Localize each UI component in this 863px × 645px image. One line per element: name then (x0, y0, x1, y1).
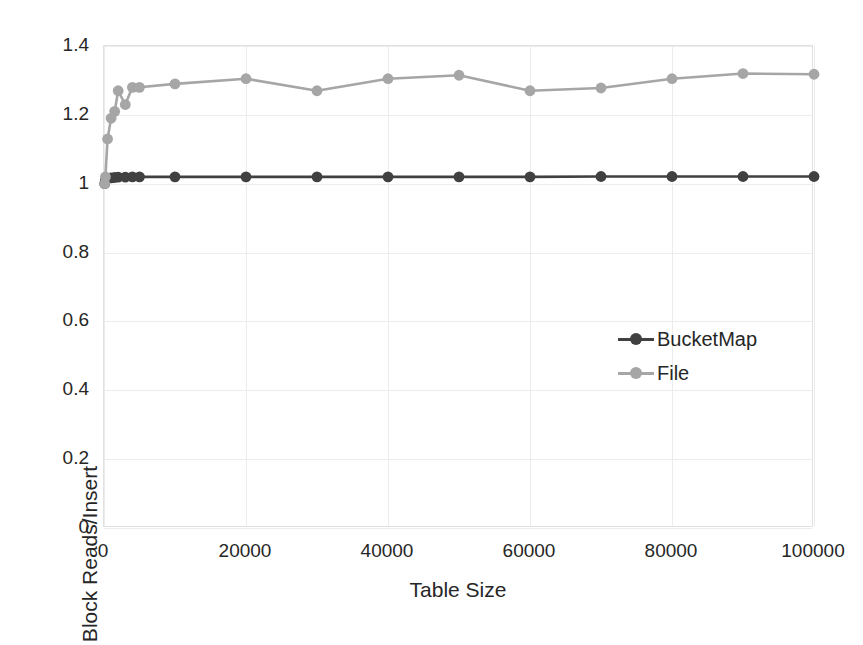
data-point-marker (312, 85, 323, 96)
x-axis-tick-label: 0 (33, 541, 173, 560)
series-line (105, 74, 814, 184)
gridline-vertical (814, 46, 815, 526)
legend-item-file[interactable]: File (618, 356, 757, 390)
data-point-marker (170, 171, 181, 182)
data-point-marker (667, 171, 678, 182)
data-point-marker (120, 99, 131, 110)
y-axis-tick-label: 1 (0, 173, 89, 192)
legend-label-bucketmap: BucketMap (657, 329, 757, 349)
y-axis-tick-label: 0.6 (0, 310, 89, 329)
legend-marker-bucketmap (618, 329, 654, 349)
data-series-layer (104, 46, 814, 528)
data-point-marker (170, 78, 181, 89)
data-point-marker (241, 171, 252, 182)
data-point-marker (525, 171, 536, 182)
data-point-marker (109, 106, 120, 117)
data-point-marker (738, 171, 749, 182)
x-axis-tick-label: 20000 (175, 541, 315, 560)
legend-label-file: File (657, 363, 689, 383)
data-point-marker (454, 70, 465, 81)
data-point-marker (134, 171, 145, 182)
series-bucketmap (99, 171, 819, 189)
data-point-marker (113, 85, 124, 96)
data-point-marker (454, 171, 465, 182)
data-point-marker (809, 69, 820, 80)
data-point-marker (312, 171, 323, 182)
y-axis-tick-label: 0.8 (0, 242, 89, 261)
chart-title-remnant (0, 0, 863, 10)
x-axis-title: Table Size (103, 578, 813, 602)
data-point-marker (100, 171, 111, 182)
data-point-marker (102, 134, 113, 145)
y-axis-tick-label: 0 (0, 517, 89, 536)
legend-item-bucketmap[interactable]: BucketMap (618, 322, 757, 356)
y-axis-tick-label: 0.2 (0, 448, 89, 467)
data-point-marker (383, 171, 394, 182)
x-axis-tick-label: 100000 (743, 541, 863, 560)
y-axis-tick-label: 1.2 (0, 104, 89, 123)
y-axis-tick-label: 1.4 (0, 35, 89, 54)
x-axis-tick-label: 40000 (317, 541, 457, 560)
x-axis-tick-label: 80000 (601, 541, 741, 560)
data-point-marker (241, 73, 252, 84)
chart-legend: BucketMap File (618, 322, 757, 390)
data-point-marker (525, 85, 536, 96)
y-axis-title: Block Reads/Insert (78, 404, 102, 645)
data-point-marker (596, 171, 607, 182)
data-point-marker (738, 68, 749, 79)
gridline-horizontal (104, 528, 812, 529)
y-axis-tick-label: 0.4 (0, 379, 89, 398)
plot-area: BucketMap File (103, 45, 813, 527)
legend-marker-file (618, 363, 654, 383)
data-point-marker (134, 82, 145, 93)
data-point-marker (596, 83, 607, 94)
data-point-marker (667, 73, 678, 84)
series-file (99, 68, 819, 189)
x-axis-tick-label: 60000 (459, 541, 599, 560)
data-point-marker (809, 171, 820, 182)
data-point-marker (383, 73, 394, 84)
